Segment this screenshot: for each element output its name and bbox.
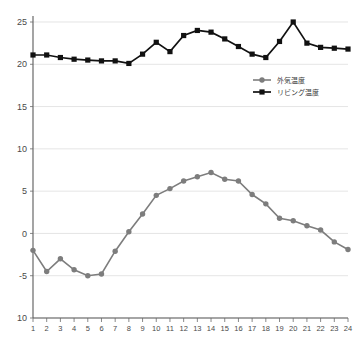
- data-point: [208, 170, 213, 175]
- data-point: [30, 52, 35, 57]
- data-point: [332, 46, 337, 51]
- x-tick-label: 9: [140, 324, 144, 333]
- x-tick-label: 13: [193, 324, 201, 333]
- data-point: [140, 211, 145, 216]
- data-point: [304, 41, 309, 46]
- x-tick-label: 5: [86, 324, 90, 333]
- data-point: [249, 192, 254, 197]
- data-point: [291, 218, 296, 223]
- x-tick-label: 17: [248, 324, 256, 333]
- data-point: [277, 39, 282, 44]
- data-point: [154, 40, 159, 45]
- x-tick-label: 6: [99, 324, 103, 333]
- series-line-living: [33, 22, 348, 63]
- x-tick-label: 16: [234, 324, 242, 333]
- data-point: [263, 201, 268, 206]
- data-point: [236, 44, 241, 49]
- x-tick-label: 4: [72, 324, 76, 333]
- data-point: [126, 61, 131, 66]
- x-tick-label: 20: [289, 324, 297, 333]
- data-point: [345, 247, 350, 252]
- data-point: [291, 19, 296, 24]
- data-point: [318, 227, 323, 232]
- data-point: [44, 269, 49, 274]
- data-point: [167, 49, 172, 54]
- y-tick-label: 0: [22, 229, 27, 239]
- data-point: [99, 271, 104, 276]
- data-point: [263, 55, 268, 60]
- data-point: [195, 174, 200, 179]
- data-point: [167, 186, 172, 191]
- data-point: [126, 229, 131, 234]
- data-point: [236, 178, 241, 183]
- y-tick-label: 15: [17, 102, 27, 112]
- gridlines-group: [33, 22, 348, 318]
- data-point: [222, 36, 227, 41]
- data-point: [181, 178, 186, 183]
- y-axis-ticks: 2520151050-510: [17, 17, 33, 323]
- x-tick-label: 14: [207, 324, 215, 333]
- data-point: [99, 58, 104, 63]
- x-tick-label: 22: [316, 324, 324, 333]
- x-tick-label: 24: [344, 324, 352, 333]
- x-tick-label: 7: [113, 324, 117, 333]
- x-tick-label: 18: [262, 324, 270, 333]
- temperature-line-chart: 2520151050-510 1234567891011121314151617…: [0, 0, 354, 351]
- data-point: [332, 239, 337, 244]
- legend-marker-0: [259, 77, 264, 82]
- x-tick-label: 3: [58, 324, 62, 333]
- data-point: [181, 33, 186, 38]
- data-point: [154, 193, 159, 198]
- x-tick-label: 15: [221, 324, 229, 333]
- data-point: [318, 45, 323, 50]
- x-tick-label: 8: [127, 324, 131, 333]
- chart-canvas: 2520151050-510 1234567891011121314151617…: [0, 0, 354, 351]
- data-point: [304, 223, 309, 228]
- y-tick-label: 10: [17, 313, 27, 323]
- series-line-outside: [33, 173, 348, 276]
- x-tick-label: 11: [166, 324, 174, 333]
- data-point: [71, 57, 76, 62]
- data-point: [85, 273, 90, 278]
- data-point: [208, 30, 213, 35]
- y-tick-label: -5: [19, 271, 27, 281]
- y-tick-label: 20: [17, 59, 27, 69]
- data-point: [71, 267, 76, 272]
- x-tick-label: 12: [179, 324, 187, 333]
- x-tick-label: 19: [275, 324, 283, 333]
- x-axis-ticks: 123456789101112131415161718192021222324: [31, 318, 352, 333]
- data-point: [30, 248, 35, 253]
- chart-legend: 外気温度リビング温度: [253, 76, 319, 97]
- data-point: [58, 256, 63, 261]
- data-point: [140, 52, 145, 57]
- legend-label-0: 外気温度: [277, 76, 305, 85]
- data-point: [58, 55, 63, 60]
- data-point: [250, 52, 255, 57]
- y-tick-label: 10: [17, 144, 27, 154]
- data-point: [113, 58, 118, 63]
- x-tick-label: 23: [330, 324, 338, 333]
- x-tick-label: 21: [303, 324, 311, 333]
- y-tick-label: 25: [17, 17, 27, 27]
- data-point: [345, 46, 350, 51]
- data-point: [277, 216, 282, 221]
- x-tick-label: 10: [152, 324, 160, 333]
- data-point: [44, 52, 49, 57]
- data-point: [195, 28, 200, 33]
- data-point: [112, 248, 117, 253]
- data-point: [222, 177, 227, 182]
- x-tick-label: 2: [45, 324, 49, 333]
- legend-marker-1: [259, 89, 264, 94]
- x-tick-label: 1: [31, 324, 35, 333]
- data-point: [85, 57, 90, 62]
- legend-label-1: リビング温度: [277, 88, 319, 97]
- y-tick-label: 5: [22, 186, 27, 196]
